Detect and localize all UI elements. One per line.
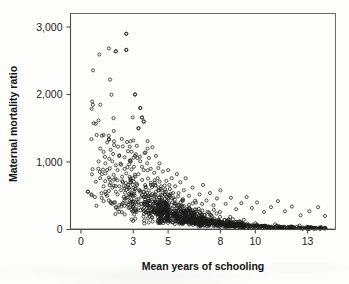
x-tick-label: 8	[218, 235, 224, 247]
x-tick-label: 5	[165, 235, 171, 247]
x-tick-label: 3	[130, 235, 136, 247]
chart-canvas: 0358101301,0002,0003,000 Mean years of s…	[0, 0, 349, 284]
x-tick-label: 10	[249, 235, 261, 247]
y-axis-title: Maternal mortality ratio	[7, 66, 19, 182]
y-tick-label: 1,000	[36, 156, 62, 168]
y-tick-label: 2,000	[36, 88, 62, 100]
x-tick-label: 0	[78, 235, 84, 247]
y-tick-label: 0	[57, 223, 63, 235]
chart-background	[0, 0, 349, 284]
x-tick-label: 13	[302, 235, 314, 247]
x-axis-title: Mean years of schooling	[142, 260, 265, 272]
y-tick-label: 3,000	[36, 21, 62, 33]
scatter-plot-figure: 0358101301,0002,0003,000 Mean years of s…	[0, 0, 349, 284]
